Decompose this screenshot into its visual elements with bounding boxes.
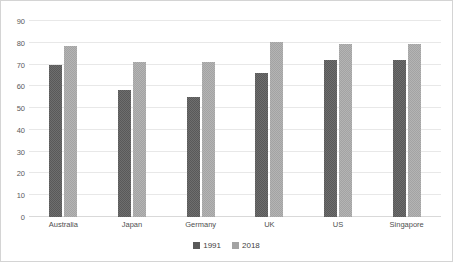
chart-legend: 19912018 (1, 241, 452, 250)
bar (187, 97, 200, 217)
legend-swatch-icon (193, 242, 200, 249)
bar (64, 46, 77, 217)
bar (133, 62, 146, 217)
y-axis-tick-label: 60 (3, 82, 25, 91)
x-axis-tick-label: UK (235, 220, 304, 229)
legend-item[interactable]: 2018 (232, 241, 260, 250)
y-axis-tick-label: 0 (3, 213, 25, 222)
y-axis-tick-label: 10 (3, 191, 25, 200)
bar (324, 60, 337, 217)
x-axis-tick-label: Singapore (372, 220, 441, 229)
bar-group (235, 21, 304, 217)
y-axis-tick-label: 50 (3, 104, 25, 113)
legend-label: 2018 (242, 241, 260, 250)
bar (118, 90, 131, 217)
bar (393, 60, 406, 217)
bar-group (29, 21, 98, 217)
legend-swatch-icon (232, 242, 239, 249)
bar-group (372, 21, 441, 217)
bar-group (98, 21, 167, 217)
bar-group (304, 21, 373, 217)
bar (255, 73, 268, 217)
y-axis-tick-label: 70 (3, 60, 25, 69)
bar (408, 44, 421, 217)
y-axis-tick-label: 80 (3, 38, 25, 47)
bar (49, 65, 62, 217)
y-axis-tick-label: 90 (3, 17, 25, 26)
x-axis-tick-label: Australia (29, 220, 98, 229)
legend-item[interactable]: 1991 (193, 241, 221, 250)
y-axis-tick-label: 30 (3, 147, 25, 156)
bar (339, 44, 352, 217)
x-axis-tick-label: Germany (166, 220, 235, 229)
bar-chart: 0102030405060708090 AustraliaJapanGerman… (0, 0, 453, 262)
bars-layer (29, 21, 441, 217)
x-axis: AustraliaJapanGermanyUKUSSingapore (29, 220, 441, 229)
bar (202, 62, 215, 217)
y-axis-tick-label: 20 (3, 169, 25, 178)
bar (270, 42, 283, 217)
legend-label: 1991 (203, 241, 221, 250)
bar-group (166, 21, 235, 217)
y-axis-tick-label: 40 (3, 125, 25, 134)
x-axis-tick-label: Japan (98, 220, 167, 229)
x-axis-tick-label: US (304, 220, 373, 229)
